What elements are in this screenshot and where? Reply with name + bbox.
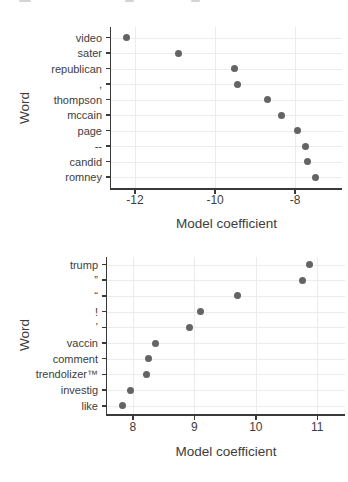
x-tick-label: 11	[311, 420, 323, 434]
category-label: thompson	[0, 93, 102, 107]
y-tick-mark	[106, 83, 110, 85]
y-axis-line	[110, 27, 112, 188]
gridline-horizontal	[107, 390, 345, 391]
data-point	[123, 34, 130, 41]
gridline-horizontal	[107, 296, 345, 297]
y-tick-mark	[102, 279, 106, 281]
y-tick-mark	[106, 176, 110, 178]
y-tick-mark	[102, 342, 106, 344]
data-point	[234, 292, 241, 299]
x-tick-label: -12	[126, 193, 143, 207]
gridline-horizontal	[107, 312, 345, 313]
dot-plot-positive-coefficients: Word Model coefficient 891011trump”“!’va…	[0, 241, 348, 482]
category-label: trump	[0, 258, 98, 272]
x-tick-label: 10	[249, 420, 262, 434]
page: { "colors": { "point": "#646464", "axis"…	[0, 0, 348, 482]
x-axis-line	[106, 414, 346, 416]
category-label: romney	[0, 170, 102, 184]
gridline-horizontal	[107, 406, 345, 407]
x-axis-title: Model coefficient	[176, 216, 277, 232]
data-point	[278, 112, 285, 119]
category-label: ”	[0, 273, 98, 287]
category-label: candid	[0, 155, 102, 169]
gridline-vertical	[215, 27, 216, 188]
x-axis-title: Model coefficient	[175, 444, 276, 460]
category-label: vaccin	[0, 336, 98, 350]
dot-plot-negative-coefficients: Word Model coefficient -12-10-8videosate…	[0, 0, 348, 241]
x-tick-label: 8	[129, 420, 136, 434]
x-tick-label: -8	[290, 193, 301, 207]
gridline-vertical	[135, 27, 136, 188]
category-label: like	[0, 399, 98, 413]
y-tick-mark	[106, 130, 110, 132]
data-point	[175, 50, 182, 57]
y-tick-mark	[106, 52, 110, 54]
y-tick-mark	[106, 99, 110, 101]
category-label: --	[0, 139, 102, 153]
y-tick-mark	[102, 405, 106, 407]
category-label: comment	[0, 352, 98, 366]
category-label: ’	[0, 320, 98, 334]
x-tick-label: 9	[191, 420, 198, 434]
gridline-horizontal	[111, 177, 342, 178]
gridline-horizontal	[107, 327, 345, 328]
y-tick-mark	[102, 264, 106, 266]
category-label: ,	[0, 77, 102, 91]
data-point	[186, 324, 193, 331]
category-label: page	[0, 124, 102, 138]
gridline-horizontal	[111, 115, 342, 116]
y-tick-mark	[102, 358, 106, 360]
gridline-horizontal	[111, 69, 342, 70]
data-point	[127, 387, 134, 394]
data-point	[312, 174, 319, 181]
gridline-horizontal	[111, 131, 342, 132]
y-tick-mark	[102, 389, 106, 391]
category-label: “	[0, 289, 98, 303]
data-point	[299, 277, 306, 284]
y-tick-mark	[106, 145, 110, 147]
x-axis-line	[110, 188, 343, 190]
gridline-horizontal	[111, 84, 342, 85]
category-label: republican	[0, 62, 102, 76]
y-axis-line	[106, 257, 108, 415]
data-point	[306, 261, 313, 268]
data-point	[302, 143, 309, 150]
y-tick-mark	[102, 374, 106, 376]
x-tick-label: -10	[206, 193, 223, 207]
gridline-horizontal	[107, 343, 345, 344]
category-label: trendolizer™	[0, 367, 98, 381]
y-tick-mark	[102, 327, 106, 329]
gridline-horizontal	[111, 53, 342, 54]
gridline-horizontal	[111, 100, 342, 101]
gridline-vertical	[295, 27, 296, 188]
data-point	[152, 340, 159, 347]
data-point	[304, 158, 311, 165]
y-tick-mark	[106, 37, 110, 39]
gridline-horizontal	[111, 38, 342, 39]
y-tick-mark	[106, 68, 110, 70]
gridline-horizontal	[107, 359, 345, 360]
gridline-horizontal	[107, 280, 345, 281]
plot-panel	[111, 27, 342, 188]
data-point	[119, 402, 126, 409]
y-tick-mark	[102, 295, 106, 297]
category-label: mccain	[0, 108, 102, 122]
category-label: !	[0, 305, 98, 319]
data-point	[231, 65, 238, 72]
data-point	[143, 371, 150, 378]
plot-panel	[107, 257, 345, 415]
data-point	[234, 81, 241, 88]
y-tick-mark	[102, 311, 106, 313]
category-label: sater	[0, 46, 102, 60]
data-point	[197, 308, 204, 315]
y-tick-mark	[106, 161, 110, 163]
category-label: video	[0, 31, 102, 45]
data-point	[145, 355, 152, 362]
y-tick-mark	[106, 114, 110, 116]
category-label: investig	[0, 383, 98, 397]
data-point	[264, 96, 271, 103]
data-point	[294, 127, 301, 134]
